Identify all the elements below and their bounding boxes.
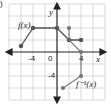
problem-number: )	[0, 0, 3, 8]
y-axis-label: y	[49, 8, 53, 17]
finv-label: f⁻¹(x)	[76, 80, 96, 89]
graph	[0, 0, 111, 107]
x-arrow-left-icon	[6, 49, 12, 55]
x-axis-label: x	[96, 55, 100, 64]
y-arrow-down-icon	[54, 97, 60, 103]
tick-neg4-x: -4	[28, 55, 35, 63]
tick-4-x: 4	[79, 55, 83, 63]
f-label: f(x)	[18, 21, 31, 30]
tick-0: 0	[48, 55, 52, 63]
tick-neg4-y: -4	[48, 72, 55, 80]
